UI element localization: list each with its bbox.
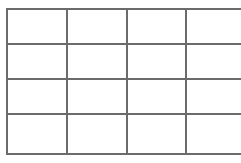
grid-table: [6, 8, 241, 155]
table-cell[interactable]: [67, 114, 127, 154]
grid-canvas: [0, 0, 241, 163]
table-row: [7, 9, 241, 44]
table-cell[interactable]: [67, 79, 127, 114]
table-cell[interactable]: [67, 9, 127, 44]
table-cell[interactable]: [127, 9, 186, 44]
table-row: [7, 79, 241, 114]
grid-table-body: [7, 9, 241, 154]
table-cell[interactable]: [186, 9, 241, 44]
table-cell[interactable]: [186, 44, 241, 79]
table-cell[interactable]: [7, 114, 67, 154]
table-row: [7, 114, 241, 154]
table-cell[interactable]: [7, 79, 67, 114]
table-cell[interactable]: [7, 44, 67, 79]
table-cell[interactable]: [127, 114, 186, 154]
table-cell[interactable]: [67, 44, 127, 79]
table-row: [7, 44, 241, 79]
table-cell[interactable]: [186, 79, 241, 114]
table-cell[interactable]: [127, 44, 186, 79]
table-cell[interactable]: [186, 114, 241, 154]
table-cell[interactable]: [7, 9, 67, 44]
table-cell[interactable]: [127, 79, 186, 114]
